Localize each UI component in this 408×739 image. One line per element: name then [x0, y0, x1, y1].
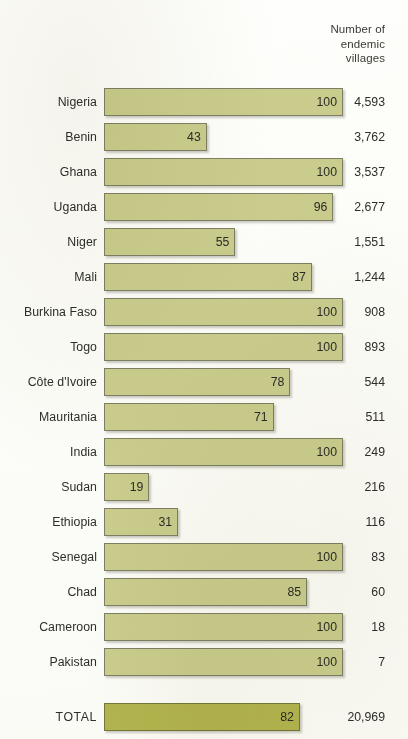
bar: 100: [104, 333, 343, 361]
chart-row: Côte d'Ivoire78544: [0, 368, 408, 403]
endemic-villages-value: 908: [364, 298, 385, 326]
row-label-benin: Benin: [0, 123, 97, 151]
bar-track: 100: [104, 543, 343, 571]
chart-row: Sudan19216: [0, 473, 408, 508]
chart-row: Chad8560: [0, 578, 408, 613]
bar-value-label: 71: [254, 404, 268, 430]
row-label-mali: Mali: [0, 263, 97, 291]
total-label: TOTAL: [0, 703, 97, 731]
row-label-india: India: [0, 438, 97, 466]
bar-track: 78: [104, 368, 343, 396]
bar-track: 85: [104, 578, 343, 606]
endemic-villages-bar-chart: Number of endemic villages Nigeria1004,5…: [0, 0, 408, 739]
endemic-villages-value: 83: [371, 543, 385, 571]
endemic-villages-value: 893: [364, 333, 385, 361]
bar-track: 19: [104, 473, 343, 501]
total-bar-value-label: 82: [280, 704, 294, 730]
bar-track: 100: [104, 613, 343, 641]
row-label-sudan: Sudan: [0, 473, 97, 501]
bar: 100: [104, 438, 343, 466]
bar: 100: [104, 158, 343, 186]
bar-value-label: 31: [158, 509, 172, 535]
row-label-ghana: Ghana: [0, 158, 97, 186]
row-label-togo: Togo: [0, 333, 97, 361]
bar-value-label: 78: [271, 369, 285, 395]
bar-value-label: 55: [216, 229, 230, 255]
bar: 100: [104, 298, 343, 326]
bar: 100: [104, 648, 343, 676]
chart-row: Nigeria1004,593: [0, 88, 408, 123]
bar: 19: [104, 473, 149, 501]
row-label-burkina-faso: Burkina Faso: [0, 298, 97, 326]
chart-row: Ethiopia31116: [0, 508, 408, 543]
bar-value-label: 19: [130, 474, 144, 500]
bar-value-label: 96: [314, 194, 328, 220]
endemic-villages-value: 249: [364, 438, 385, 466]
bar: 96: [104, 193, 333, 221]
total-row: TOTAL8220,969: [0, 703, 408, 738]
bar: 100: [104, 543, 343, 571]
bar: 71: [104, 403, 274, 431]
endemic-villages-value: 1,551: [354, 228, 385, 256]
endemic-villages-value: 7: [378, 648, 385, 676]
chart-row: Uganda962,677: [0, 193, 408, 228]
bar-value-label: 100: [316, 334, 337, 360]
row-label-nigeria: Nigeria: [0, 88, 97, 116]
chart-row: Niger551,551: [0, 228, 408, 263]
bar-track: 100: [104, 298, 343, 326]
bar-track: 100: [104, 158, 343, 186]
bar-value-label: 43: [187, 124, 201, 150]
endemic-villages-value: 60: [371, 578, 385, 606]
chart-row: Senegal10083: [0, 543, 408, 578]
bar-track: 100: [104, 333, 343, 361]
row-label-c-te-d-ivoire: Côte d'Ivoire: [0, 368, 97, 396]
chart-row: Togo100893: [0, 333, 408, 368]
endemic-villages-value: 3,762: [354, 123, 385, 151]
chart-row: Burkina Faso100908: [0, 298, 408, 333]
header-line-1: Number of: [265, 22, 385, 37]
bar-value-label: 100: [316, 159, 337, 185]
endemic-villages-value: 1,244: [354, 263, 385, 291]
bar-value-label: 100: [316, 544, 337, 570]
total-bar-track: 82: [104, 703, 343, 731]
bar-value-label: 87: [292, 264, 306, 290]
bar: 100: [104, 88, 343, 116]
bar-track: 100: [104, 648, 343, 676]
bar-track: 100: [104, 438, 343, 466]
chart-row: Benin433,762: [0, 123, 408, 158]
bar: 87: [104, 263, 312, 291]
bar-value-label: 100: [316, 649, 337, 675]
endemic-villages-value: 4,593: [354, 88, 385, 116]
bar: 31: [104, 508, 178, 536]
row-label-chad: Chad: [0, 578, 97, 606]
bar-value-label: 100: [316, 299, 337, 325]
bar-track: 100: [104, 88, 343, 116]
chart-row: Mauritania71511: [0, 403, 408, 438]
bar: 85: [104, 578, 307, 606]
bar-track: 71: [104, 403, 343, 431]
row-label-ethiopia: Ethiopia: [0, 508, 97, 536]
bar-track: 43: [104, 123, 343, 151]
endemic-villages-value: 18: [371, 613, 385, 641]
endemic-villages-value: 544: [364, 368, 385, 396]
row-label-senegal: Senegal: [0, 543, 97, 571]
chart-row: Pakistan1007: [0, 648, 408, 683]
endemic-villages-value: 2,677: [354, 193, 385, 221]
chart-row: Cameroon10018: [0, 613, 408, 648]
value-column-header: Number of endemic villages: [265, 22, 385, 66]
bar: 43: [104, 123, 207, 151]
row-label-pakistan: Pakistan: [0, 648, 97, 676]
chart-row: Mali871,244: [0, 263, 408, 298]
bar-value-label: 100: [316, 439, 337, 465]
total-bar: 82: [104, 703, 300, 731]
endemic-villages-value: 511: [365, 403, 385, 431]
header-line-2: endemic: [265, 37, 385, 52]
total-endemic-villages-value: 20,969: [347, 703, 385, 731]
chart-row: Ghana1003,537: [0, 158, 408, 193]
bar-value-label: 100: [316, 614, 337, 640]
bar-track: 96: [104, 193, 343, 221]
bar-track: 55: [104, 228, 343, 256]
bar-value-label: 85: [287, 579, 301, 605]
row-label-uganda: Uganda: [0, 193, 97, 221]
chart-row: India100249: [0, 438, 408, 473]
